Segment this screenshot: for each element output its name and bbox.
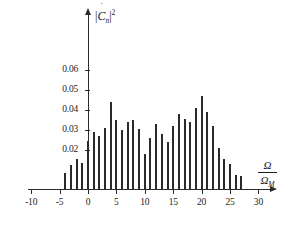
bar [184,119,186,190]
bar [172,126,174,190]
y-axis-title: |˙Cn|2 [95,8,115,25]
bar [189,122,191,190]
bar [81,163,83,190]
bar [121,130,123,190]
bar [110,102,112,190]
bar [155,124,157,190]
bar [240,176,242,190]
bar [98,136,100,190]
dot-accent-icon: ˙ [100,4,103,9]
y-axis-title-letter: C [97,9,105,23]
bar [87,141,89,190]
x-axis-title: Ω ΩM [258,160,277,191]
x-axis-title-numerator: Ω [258,160,277,171]
bar [206,112,208,190]
bar [218,148,220,190]
bar [223,159,225,190]
y-axis-title-power: 2 [112,8,116,17]
bar [132,120,134,190]
bar [104,128,106,190]
bar [138,129,140,190]
chart-figure: 0.020.030.040.050.06 -10-5051015202530 |… [0,0,297,229]
bar [161,134,163,190]
bar-series [0,0,297,229]
fraction-bar [258,172,277,173]
bar [76,159,78,190]
x-axis-title-denominator-sub: M [268,180,274,189]
bar [201,96,203,190]
bar [93,132,95,190]
bar [144,154,146,190]
bar [212,126,214,190]
bar [178,114,180,190]
bar [229,164,231,190]
bar [64,173,66,190]
bar [127,122,129,190]
y-axis-title-symbol: ˙C [97,9,105,23]
bar [115,120,117,190]
bar [235,175,237,189]
bar [195,108,197,190]
bar [167,142,169,190]
bar [149,138,151,190]
x-axis-title-denominator: ΩM [258,174,277,191]
bar [70,165,72,190]
